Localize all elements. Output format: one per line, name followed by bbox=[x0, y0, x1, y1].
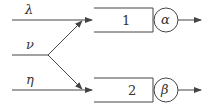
alpha-label: α bbox=[161, 12, 170, 27]
lambda-label: λ bbox=[24, 2, 33, 17]
block-2: 2 bbox=[94, 78, 153, 102]
input-nu: ν bbox=[12, 21, 82, 89]
nu-label: ν bbox=[26, 37, 34, 52]
eta-label: η bbox=[26, 72, 34, 87]
beta-label: β bbox=[160, 82, 169, 97]
gain-alpha: α bbox=[154, 8, 201, 32]
block-2-label: 2 bbox=[128, 83, 136, 98]
block-diagram: λ ν η 1 α 2 β bbox=[0, 0, 209, 106]
block-1: 1 bbox=[94, 8, 153, 32]
block-1-label: 1 bbox=[122, 13, 130, 28]
gain-beta: β bbox=[154, 78, 201, 102]
input-lambda: λ bbox=[12, 2, 92, 20]
